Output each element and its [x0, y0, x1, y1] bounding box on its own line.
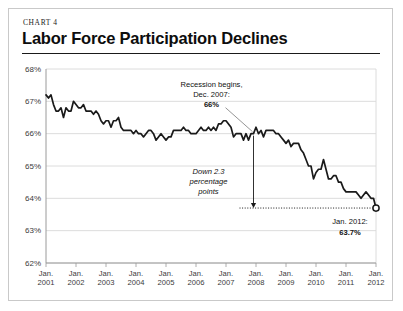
x-tick-label-year: 2006	[188, 278, 205, 287]
end-annotation-value: 63.7%	[339, 228, 361, 237]
x-axis-tick-labels: Jan.2001Jan.2002Jan.2003Jan.2004Jan.2005…	[38, 269, 385, 287]
x-tick-label-year: 2003	[98, 278, 115, 287]
x-tick-label-month: Jan.	[249, 269, 263, 278]
chart-card: CHART 4 Labor Force Participation Declin…	[8, 8, 393, 301]
y-tick-label: 64%	[25, 194, 41, 203]
x-tick-label-year: 2010	[308, 278, 325, 287]
x-tick-label-month: Jan.	[219, 269, 233, 278]
x-tick-label-year: 2012	[368, 278, 385, 287]
y-tick-label: 68%	[25, 65, 41, 74]
end-annotation-line1: Jan. 2012:	[332, 217, 367, 226]
chart-plot-area: 62%63%64%65%66%67%68% Jan.2001Jan.2002Ja…	[9, 9, 394, 302]
y-tick-label: 66%	[25, 129, 41, 138]
drop-arrow-head	[251, 203, 256, 208]
x-tick-label-year: 2004	[128, 278, 145, 287]
line-chart-svg: 62%63%64%65%66%67%68% Jan.2001Jan.2002Ja…	[9, 9, 394, 302]
recession-annotation-line1: Recession begins,	[180, 80, 242, 89]
drop-annotation-line1: Down 2.3	[192, 167, 225, 176]
y-tick-label: 65%	[25, 162, 41, 171]
x-tick-label-year: 2002	[68, 278, 85, 287]
x-tick-label-year: 2005	[158, 278, 175, 287]
x-tick-label-year: 2001	[38, 278, 55, 287]
recession-annotation-line2: Dec. 2007:	[193, 90, 230, 99]
x-tick-label-month: Jan.	[129, 269, 143, 278]
x-tick-label-month: Jan.	[279, 269, 293, 278]
x-tick-label-year: 2011	[338, 278, 354, 287]
x-tick-label-month: Jan.	[69, 269, 83, 278]
x-tick-label-month: Jan.	[309, 269, 323, 278]
x-tick-label-year: 2009	[278, 278, 295, 287]
y-tick-label: 67%	[25, 97, 41, 106]
x-tick-label-year: 2007	[218, 278, 235, 287]
x-tick-label-month: Jan.	[189, 269, 203, 278]
y-tick-label: 63%	[25, 226, 41, 235]
drop-annotation-line3: points	[197, 187, 218, 196]
x-tick-label-month: Jan.	[39, 269, 53, 278]
drop-annotation-line2: percentage	[189, 177, 228, 186]
recession-annotation-value: 66%	[204, 100, 219, 109]
x-axis-tick-marks	[46, 263, 376, 267]
x-tick-label-month: Jan.	[339, 269, 353, 278]
x-tick-label-year: 2008	[248, 278, 265, 287]
y-tick-label: 62%	[25, 259, 41, 268]
x-tick-label-month: Jan.	[99, 269, 113, 278]
x-tick-label-month: Jan.	[369, 269, 383, 278]
end-point-marker	[373, 205, 379, 211]
recession-leader-line	[226, 108, 253, 132]
x-tick-label-month: Jan.	[159, 269, 173, 278]
y-axis-tick-labels: 62%63%64%65%66%67%68%	[25, 65, 41, 268]
